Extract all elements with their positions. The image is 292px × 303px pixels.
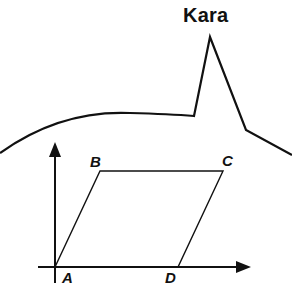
peak-label: Kara [183,4,228,27]
y-axis-arrow-icon [49,142,61,157]
diagram-canvas: Kara A B C D [0,0,292,303]
vertex-label-d: D [165,269,176,286]
diagram-svg [0,0,292,303]
horizon-outline [0,37,292,155]
x-axis-arrow-icon [236,261,251,273]
vertex-label-c: C [222,152,233,169]
parallelogram-abcd [55,171,223,267]
vertex-label-a: A [62,269,73,286]
vertex-label-b: B [90,153,101,170]
